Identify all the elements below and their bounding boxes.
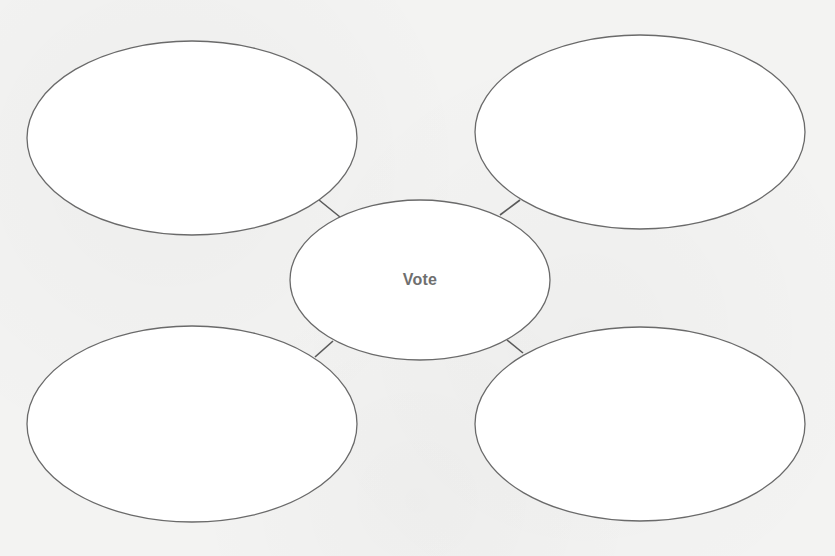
bubble-bottom-right[interactable] — [475, 327, 805, 521]
connector-top-right — [500, 200, 520, 215]
bubble-bottom-left[interactable] — [27, 326, 357, 522]
connector-bottom-right — [507, 340, 523, 353]
bubble-top-right[interactable] — [475, 35, 805, 229]
connector-bottom-left — [315, 341, 333, 357]
bubble-top-left[interactable] — [27, 41, 357, 235]
connector-top-left — [319, 200, 340, 217]
center-bubble-label: Vote — [340, 271, 500, 289]
